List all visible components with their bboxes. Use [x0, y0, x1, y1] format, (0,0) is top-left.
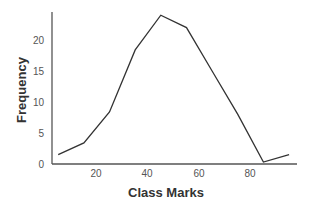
- frequency-line: [58, 15, 289, 162]
- y-tick-label: 5: [38, 128, 44, 139]
- chart-svg: 0 5 10 15 20 20 40 60 80 Class Marks Fre…: [0, 0, 309, 206]
- x-tick-labels: 20 40 60 80: [90, 168, 256, 179]
- x-tick-label: 80: [244, 168, 256, 179]
- x-tick-label: 60: [193, 168, 205, 179]
- x-tick-label: 20: [90, 168, 102, 179]
- frequency-polygon-chart: 0 5 10 15 20 20 40 60 80 Class Marks Fre…: [0, 0, 309, 206]
- x-axis-title: Class Marks: [128, 185, 204, 200]
- y-tick-label: 0: [38, 159, 44, 170]
- y-axis-title: Frequency: [14, 56, 29, 123]
- y-tick-label: 10: [33, 97, 45, 108]
- y-tick-label: 20: [33, 35, 45, 46]
- y-tick-labels: 0 5 10 15 20: [33, 35, 45, 170]
- x-tick-label: 40: [141, 168, 153, 179]
- y-tick-label: 15: [33, 66, 45, 77]
